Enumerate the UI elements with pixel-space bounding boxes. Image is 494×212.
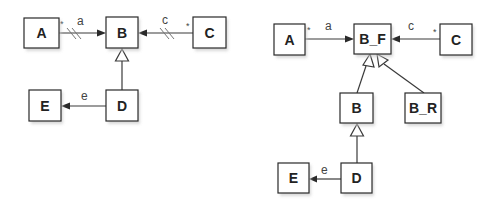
class-BR-right[interactable]: B_R	[405, 93, 443, 126]
generalization-B-BF-right	[357, 54, 374, 93]
class-label: A	[36, 25, 46, 41]
class-label: B_R	[409, 100, 437, 116]
class-E-left[interactable]: E	[29, 90, 63, 124]
class-label: C	[451, 32, 461, 48]
assoc-c-left: c *	[138, 13, 193, 39]
class-label: E	[40, 98, 49, 114]
assoc-label-c: c	[162, 13, 168, 27]
class-A-right[interactable]: A	[274, 24, 307, 58]
class-label: D	[117, 98, 127, 114]
multiplicity-c: *	[186, 21, 190, 31]
assoc-a-right: a *	[305, 19, 354, 43]
class-label: A	[284, 32, 294, 48]
class-B-left[interactable]: B	[106, 17, 140, 51]
generalization-BR-BF-right	[377, 54, 424, 93]
assoc-e-right: e	[309, 163, 341, 183]
class-B-right[interactable]: B	[340, 93, 375, 126]
arrowhead-icon	[345, 36, 354, 43]
class-label: D	[351, 170, 361, 186]
generalization-D-B-right	[351, 124, 364, 163]
assoc-label-c: c	[408, 19, 414, 33]
multiplicity-a: *	[307, 25, 311, 35]
assoc-a-left: a *	[59, 14, 106, 39]
class-D-right[interactable]: D	[341, 163, 374, 196]
assoc-label-a: a	[325, 19, 332, 33]
class-label: C	[204, 25, 214, 41]
class-label: B_F	[359, 31, 386, 47]
generalization-D-B-left	[116, 49, 129, 90]
uml-class-diagrams: a * c * e A B	[0, 0, 494, 212]
class-C-right[interactable]: C	[440, 24, 474, 58]
assoc-c-right: c *	[391, 19, 440, 43]
class-label: E	[289, 170, 298, 186]
arrowhead-icon	[97, 30, 106, 37]
class-A-left[interactable]: A	[24, 18, 61, 51]
class-E-right[interactable]: E	[278, 163, 311, 196]
assoc-label-e: e	[81, 89, 88, 103]
class-BF-right[interactable]: B_F	[354, 24, 393, 57]
left-diagram: a * c * e A B	[24, 13, 228, 124]
right-diagram: a * c * e A	[274, 19, 474, 196]
assoc-label-a: a	[77, 14, 84, 28]
assoc-label-e: e	[321, 163, 328, 177]
class-C-left[interactable]: C	[193, 17, 228, 51]
class-label: B	[117, 25, 127, 41]
class-D-left[interactable]: D	[106, 90, 140, 124]
class-label: B	[351, 100, 361, 116]
assoc-e-left: e	[61, 89, 106, 110]
multiplicity-c: *	[433, 27, 437, 37]
